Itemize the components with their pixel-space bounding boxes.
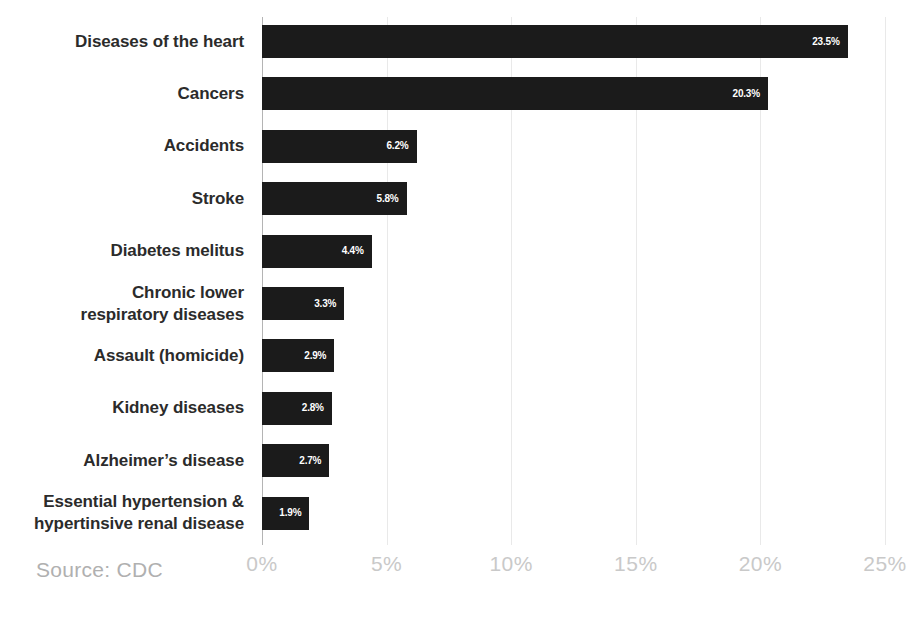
bar-value-label: 23.5% <box>812 37 839 47</box>
bar-row: 2.9% <box>262 339 885 372</box>
bar[interactable]: 4.4% <box>262 235 372 268</box>
source-note: Source: CDC <box>36 558 163 582</box>
bar-value-label: 2.9% <box>304 351 326 361</box>
category-label: Diseases of the heart <box>0 31 244 53</box>
category-label: Kidney diseases <box>0 397 244 419</box>
category-label-line: Cancers <box>0 83 244 105</box>
bar-row: 3.3% <box>262 287 885 320</box>
bar-row: 23.5% <box>262 25 885 58</box>
bar-row: 6.2% <box>262 130 885 163</box>
category-label: Stroke <box>0 188 244 210</box>
x-tick-label: 20% <box>739 552 783 576</box>
x-tick-label: 10% <box>489 552 533 576</box>
category-label: Chronic lowerrespiratory diseases <box>0 282 244 326</box>
bar[interactable]: 2.8% <box>262 392 332 425</box>
category-label-line: Diabetes melitus <box>0 240 244 262</box>
category-label-line: respiratory diseases <box>0 304 244 326</box>
category-label-line: Essential hypertension & <box>0 491 244 513</box>
bar-row: 1.9% <box>262 497 885 530</box>
bar-row: 20.3% <box>262 77 885 110</box>
bar[interactable]: 23.5% <box>262 25 848 58</box>
category-label: Alzheimer’s disease <box>0 450 244 472</box>
bar[interactable]: 5.8% <box>262 182 407 215</box>
plot-area: 23.5%20.3%6.2%5.8%4.4%3.3%2.9%2.8%2.7%1.… <box>262 17 885 545</box>
bar-row: 5.8% <box>262 182 885 215</box>
bar-value-label: 3.3% <box>314 299 336 309</box>
category-label: Cancers <box>0 83 244 105</box>
category-label: Essential hypertension &hypertinsive ren… <box>0 491 244 535</box>
bar-value-label: 2.7% <box>299 456 321 466</box>
x-tick-label: 25% <box>863 552 907 576</box>
category-label-line: Alzheimer’s disease <box>0 450 244 472</box>
category-label-line: Kidney diseases <box>0 397 244 419</box>
bar[interactable]: 2.9% <box>262 339 334 372</box>
x-axis-tick-labels: 0%5%10%15%20%25% <box>262 552 885 582</box>
bar-value-label: 1.9% <box>279 508 301 518</box>
category-label-line: Assault (homicide) <box>0 345 244 367</box>
bar[interactable]: 3.3% <box>262 287 344 320</box>
bar-value-label: 4.4% <box>342 246 364 256</box>
bar-rows: 23.5%20.3%6.2%5.8%4.4%3.3%2.9%2.8%2.7%1.… <box>262 17 885 545</box>
bar-row: 2.7% <box>262 444 885 477</box>
bar-value-label: 20.3% <box>733 89 760 99</box>
x-tick-label: 5% <box>371 552 402 576</box>
category-label-line: hypertinsive renal disease <box>0 513 244 535</box>
category-label-line: Chronic lower <box>0 282 244 304</box>
gridline-25 <box>885 17 886 545</box>
category-label-line: Diseases of the heart <box>0 31 244 53</box>
bar[interactable]: 6.2% <box>262 130 417 163</box>
bar[interactable]: 2.7% <box>262 444 329 477</box>
category-label: Accidents <box>0 135 244 157</box>
bar[interactable]: 1.9% <box>262 497 309 530</box>
category-axis-labels: Diseases of the heartCancersAccidentsStr… <box>0 17 244 545</box>
bar-chart: 23.5%20.3%6.2%5.8%4.4%3.3%2.9%2.8%2.7%1.… <box>0 0 921 619</box>
category-label-line: Stroke <box>0 188 244 210</box>
category-label: Assault (homicide) <box>0 345 244 367</box>
bar-value-label: 5.8% <box>377 194 399 204</box>
bar-value-label: 2.8% <box>302 403 324 413</box>
x-tick-label: 15% <box>614 552 658 576</box>
bar-value-label: 6.2% <box>387 141 409 151</box>
category-label-line: Accidents <box>0 135 244 157</box>
x-tick-label: 0% <box>246 552 277 576</box>
category-label: Diabetes melitus <box>0 240 244 262</box>
bar[interactable]: 20.3% <box>262 77 768 110</box>
bar-row: 2.8% <box>262 392 885 425</box>
bar-row: 4.4% <box>262 235 885 268</box>
